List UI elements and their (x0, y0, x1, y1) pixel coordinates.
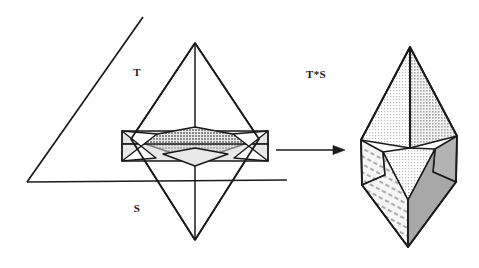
label-t: T (133, 66, 141, 78)
left-scene-t-and-s: T S (27, 17, 287, 240)
transform-arrow (276, 146, 345, 155)
geometry-figure: T S T*S (0, 0, 479, 268)
figure-container: T S T*S (0, 0, 479, 268)
arrow-head (333, 146, 345, 155)
label-t-star-s: T*S (306, 68, 326, 80)
label-s: S (134, 202, 140, 214)
minkowski-solid (361, 47, 457, 247)
bipyramid-upper-half (131, 43, 259, 139)
